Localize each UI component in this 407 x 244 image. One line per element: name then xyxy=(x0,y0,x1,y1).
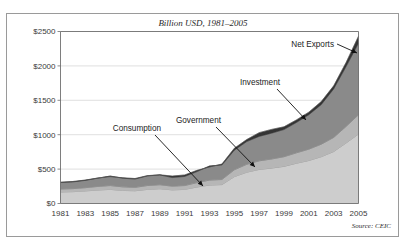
x-axis-tick-labels: 1981198319851987198919911993199519971999… xyxy=(52,209,368,218)
x-tick-label: 2001 xyxy=(300,209,318,218)
annotation-label-net-exports: Net Exports xyxy=(291,40,334,49)
x-tick-label: 1995 xyxy=(225,209,243,218)
x-tick-label: 1991 xyxy=(176,209,194,218)
annotation-label-investment: Investment xyxy=(240,78,281,87)
x-tick-label: 2005 xyxy=(350,209,368,218)
x-tick-label: 1987 xyxy=(126,209,144,218)
x-tick-label: 2003 xyxy=(325,209,343,218)
y-tick-label: $0 xyxy=(47,199,56,208)
y-tick-label: $1000 xyxy=(33,131,56,140)
y-tick-label: $2500 xyxy=(33,27,56,36)
y-tick-label: $1500 xyxy=(33,96,56,105)
y-tick-label: $2000 xyxy=(33,62,56,71)
x-tick-label: 1985 xyxy=(101,209,119,218)
annotation-leader-line xyxy=(277,89,306,120)
x-tick-label: 1997 xyxy=(250,209,268,218)
stacked-area-chart: $0$500$1000$1500$2000$2500 1981198319851… xyxy=(0,0,407,244)
x-tick-label: 1999 xyxy=(275,209,293,218)
y-axis-tick-labels: $0$500$1000$1500$2000$2500 xyxy=(33,27,60,208)
source-note: Source: CEIC xyxy=(352,222,392,230)
x-tick-label: 1993 xyxy=(201,209,219,218)
figure-container: $0$500$1000$1500$2000$2500 1981198319851… xyxy=(0,0,407,244)
chart-title: Billion USD, 1981–2005 xyxy=(158,18,248,28)
annotation-label-government: Government xyxy=(176,116,222,125)
x-tick-label: 1989 xyxy=(151,209,169,218)
x-tick-label: 1981 xyxy=(52,209,70,218)
y-tick-label: $500 xyxy=(38,165,56,174)
annotation-label-consumption: Consumption xyxy=(113,124,162,133)
x-tick-label: 1983 xyxy=(76,209,94,218)
